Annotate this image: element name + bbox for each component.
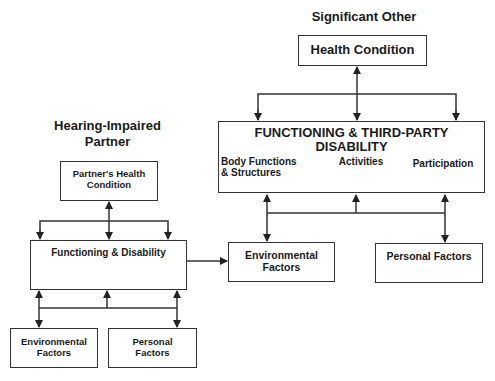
hip-personal-factors-box: Personal Factors xyxy=(108,328,197,368)
hip-heading: Hearing-Impaired Partner xyxy=(40,118,175,149)
hip-health-line1: Partner's Health xyxy=(61,168,157,179)
so-component-body-functions: Body Functions & Structures xyxy=(221,156,297,178)
significant-other-heading: Significant Other xyxy=(300,9,428,24)
so-health-condition-box: Health Condition xyxy=(298,35,427,66)
so-environmental-factors-box: Environmental Factors xyxy=(228,242,335,282)
hip-environmental-factors-box: Environmental Factors xyxy=(10,328,98,368)
hip-heading-line2: Partner xyxy=(40,134,175,150)
hip-heading-line1: Hearing-Impaired xyxy=(40,118,175,134)
hip-env-line1: Environmental xyxy=(11,336,97,347)
hip-env-line2: Factors xyxy=(11,347,97,358)
hip-personal-line2: Factors xyxy=(109,347,196,358)
so-component-activities: Activities xyxy=(331,156,391,167)
hip-personal-line1: Personal xyxy=(109,336,196,347)
so-functioning-title-line2: DISABILITY xyxy=(219,140,484,154)
hip-health-condition-box: Partner's Health Condition xyxy=(60,161,158,201)
hip-functioning-box: Functioning & Disability xyxy=(30,240,187,290)
hip-health-line2: Condition xyxy=(61,179,157,190)
so-component-participation: Participation xyxy=(407,158,479,169)
so-personal-factors-box: Personal Factors xyxy=(375,243,483,283)
so-functioning-box: FUNCTIONING & THIRD-PARTY DISABILITY Bod… xyxy=(218,121,485,193)
